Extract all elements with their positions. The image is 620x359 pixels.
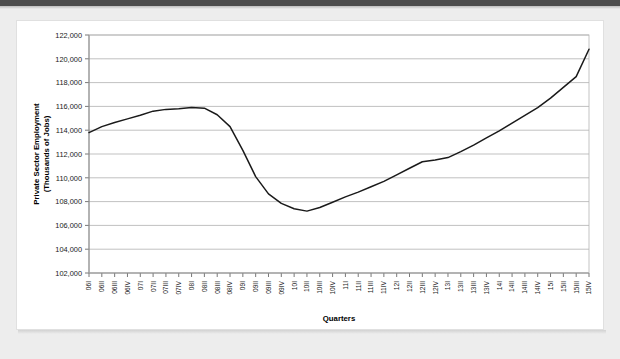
x-tick-label: 07IV: [175, 280, 182, 294]
x-tick-label: 08IV: [226, 280, 233, 294]
x-tick-label: 10III: [316, 281, 323, 294]
x-tick-label: 07I: [137, 281, 144, 290]
top-bar-shadow: [0, 6, 620, 9]
y-tick-label: 104,000: [55, 245, 82, 254]
x-tick-label: 06I: [85, 281, 92, 290]
x-tick-label: 08I: [188, 281, 195, 290]
y-axis-title-line1: Private Sector Employment: [32, 103, 41, 205]
x-tick-label: 12II: [406, 281, 413, 292]
x-tick-label: 10IV: [329, 280, 336, 294]
x-tick-label: 06IV: [124, 280, 131, 294]
x-tick-label: 11II: [355, 281, 362, 292]
x-tick-label: 10I: [291, 281, 298, 290]
y-tick-label: 110,000: [56, 174, 82, 183]
y-axis-title-line2: (Thousands of Jobs): [42, 115, 51, 192]
x-tick-label: 11I: [342, 281, 349, 290]
x-tick-label: 13I: [444, 281, 451, 290]
x-tick-label: 12III: [419, 281, 426, 294]
x-tick-label: 13IV: [483, 280, 490, 294]
y-tick-label: 102,000: [55, 269, 82, 278]
x-tick-label: 14III: [521, 281, 528, 294]
x-tick-label: 07II: [150, 281, 157, 292]
x-tick-label: 12IV: [432, 280, 439, 294]
x-tick-label: 09IV: [278, 280, 285, 294]
x-tick-label: 08II: [201, 281, 208, 292]
x-axis-title: Quarters: [323, 314, 356, 323]
y-tick-label: 122,000: [55, 31, 82, 40]
x-tick-label: 15II: [560, 281, 567, 292]
y-tick-label: 108,000: [55, 197, 82, 206]
chart-svg: 102,000104,000106,000108,000110,000112,0…: [17, 21, 605, 331]
x-tick-label: 15III: [573, 281, 580, 294]
y-tick-label: 106,000: [55, 221, 82, 230]
x-tick-label: 13II: [457, 281, 464, 292]
y-tick-label: 118,000: [56, 78, 82, 87]
x-tick-label: 08III: [214, 281, 221, 294]
gridlines-group: [89, 35, 589, 273]
page-root: 102,000104,000106,000108,000110,000112,0…: [0, 0, 620, 359]
x-tick-label: 09III: [265, 281, 272, 294]
x-tick-labels-group: 06I06II06III06IV07I07II07III07IV08I08II0…: [85, 280, 592, 294]
y-tick-labels-group: 102,000104,000106,000108,000110,000112,0…: [55, 31, 82, 278]
x-tick-label: 07III: [162, 281, 169, 294]
y-tick-label: 116,000: [56, 102, 82, 111]
y-tick-label: 112,000: [56, 150, 82, 159]
x-tick-label: 15IV: [585, 280, 592, 294]
y-tick-marks-group: [85, 35, 89, 273]
x-tick-label: 11III: [367, 281, 374, 294]
y-tick-label: 120,000: [55, 55, 82, 64]
x-tick-label: 15I: [547, 281, 554, 290]
x-tick-label: 14I: [496, 281, 503, 290]
x-tick-label: 09II: [252, 281, 259, 292]
x-tick-label: 14IV: [534, 280, 541, 294]
x-tick-label: 14II: [508, 281, 515, 292]
x-tick-label: 10II: [303, 281, 310, 292]
y-tick-label: 114,000: [56, 126, 82, 135]
x-tick-label: 12I: [393, 281, 400, 290]
line-chart: 102,000104,000106,000108,000110,000112,0…: [17, 21, 605, 331]
x-tick-label: 09I: [239, 281, 246, 290]
x-tick-label: 13III: [470, 281, 477, 294]
x-tick-label: 06II: [98, 281, 105, 292]
x-tick-label: 11IV: [380, 280, 387, 294]
x-tick-marks-group: [89, 273, 589, 277]
chart-card: 102,000104,000106,000108,000110,000112,0…: [16, 20, 604, 330]
x-tick-label: 06III: [111, 281, 118, 294]
